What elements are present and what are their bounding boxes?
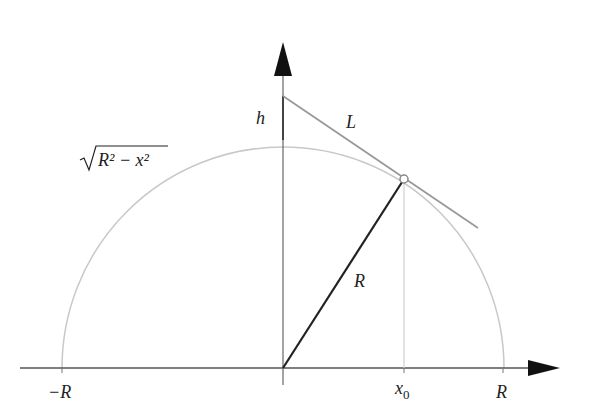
label-x0-base: x <box>394 378 403 398</box>
label-L: L <box>345 112 356 132</box>
diagram-canvas: h L R R² − x² −R R x0 <box>0 0 606 416</box>
tangent-line <box>283 96 478 228</box>
label-radius: R <box>353 271 365 291</box>
tangent-point-marker <box>400 175 408 183</box>
y-axis-arrow-icon <box>274 42 292 76</box>
label-pos-r: R <box>495 382 507 402</box>
label-h: h <box>256 108 265 128</box>
curve-equation-label: R² − x² <box>80 146 168 170</box>
label-neg-r: −R <box>48 382 71 402</box>
label-x0-subscript: 0 <box>403 387 410 402</box>
label-x0: x0 <box>394 378 410 402</box>
x-axis-arrow-icon <box>528 360 560 376</box>
radius-line <box>283 179 404 368</box>
label-curve-radicand: R² − x² <box>97 150 150 170</box>
